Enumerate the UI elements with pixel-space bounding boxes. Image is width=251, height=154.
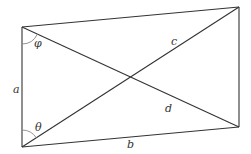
side-top	[22, 7, 239, 27]
label-c: c	[171, 35, 177, 48]
parallelogram-diagram: a b c d φ θ	[0, 0, 251, 154]
label-a: a	[13, 83, 20, 96]
label-phi: φ	[34, 37, 42, 50]
label-b: b	[127, 138, 134, 151]
label-theta: θ	[35, 121, 42, 134]
diagonal-d	[22, 27, 239, 127]
label-d: d	[165, 102, 172, 115]
